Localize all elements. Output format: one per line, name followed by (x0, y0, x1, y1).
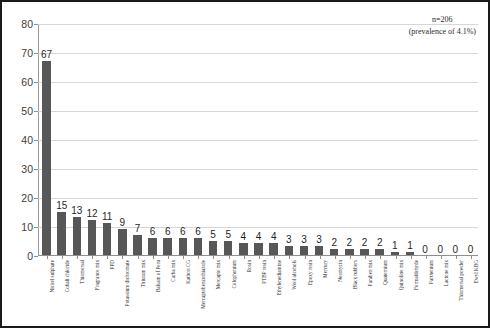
x-axis-tick-mark (471, 256, 472, 259)
x-axis-label-slot: Quaternium (373, 260, 388, 326)
y-axis-tick-mark (34, 169, 38, 170)
bar-series: 6715131211976666554443332222110000 (39, 24, 478, 255)
chart-figure: n=206 (prevalence of 4.1%) 0102030405060… (0, 0, 490, 328)
bar-group: 12 (84, 24, 99, 255)
x-axis-label-slot: Ewyl KBG (464, 260, 479, 326)
bar-value-label: 4 (241, 231, 247, 242)
bar-value-label: 0 (468, 244, 474, 255)
bar-value-label: 13 (71, 205, 82, 216)
bar (73, 217, 81, 255)
bar-value-label: 1 (407, 240, 413, 251)
x-axis-label-slot: Potassium dichromate (115, 260, 130, 326)
bar-group: 3 (281, 24, 296, 255)
bar-group: 3 (312, 24, 327, 255)
bar-value-label: 12 (86, 208, 97, 219)
bar-group: 1 (402, 24, 417, 255)
bar-group: 5 (206, 24, 221, 255)
bar-value-label: 0 (453, 244, 459, 255)
bar-value-label: 7 (135, 223, 141, 234)
bar-value-label: 4 (271, 231, 277, 242)
x-axis-label-slot: PTBP resin (251, 260, 266, 326)
x-axis-tick-mark (183, 256, 184, 259)
y-axis-tick-label: 60 (21, 76, 33, 88)
y-axis-tick-mark (34, 140, 38, 141)
bar-group: 1 (387, 24, 402, 255)
bar-group: 4 (236, 24, 251, 255)
bar-group: 7 (130, 24, 145, 255)
x-axis-label-slot: Mercaptobenzothiazole (191, 260, 206, 326)
bar (391, 252, 399, 255)
bar-group: 13 (69, 24, 84, 255)
x-axis-tick-mark (138, 256, 139, 259)
x-axis-tick-mark (229, 256, 230, 259)
bar-value-label: 5 (210, 229, 216, 240)
x-axis-label-slot: Balsam of Peru (145, 260, 160, 326)
bar-value-label: 6 (150, 226, 156, 237)
y-axis-tick-mark (34, 24, 38, 25)
bar-value-label: 9 (119, 217, 125, 228)
bar (194, 238, 202, 255)
bar (209, 241, 217, 256)
x-axis-label-slot: Neomycin (327, 260, 342, 326)
bar (406, 252, 414, 255)
bar (88, 220, 96, 255)
bar-value-label: 2 (347, 237, 353, 248)
x-axis-label-slot: Wool alcohols (282, 260, 297, 326)
y-axis-tick-label: 30 (21, 163, 33, 175)
y-axis-tick-label: 20 (21, 192, 33, 204)
x-axis-label-slot: Thiomersal powder (449, 260, 464, 326)
bar-value-label: 3 (286, 234, 292, 245)
bar-group: 15 (54, 24, 69, 255)
x-axis-label-slot: PPD (100, 260, 115, 326)
x-axis-tick-mark (305, 256, 306, 259)
x-axis-label-slot: Paraben mix (358, 260, 373, 326)
bar (239, 243, 247, 255)
bar-group: 2 (327, 24, 342, 255)
plot-area: 01020304050607080 6715131211976666554443… (38, 24, 478, 256)
bar-group: 3 (296, 24, 311, 255)
bar-group: 11 (100, 24, 115, 255)
bar-value-label: 0 (422, 244, 428, 255)
y-axis-tick-mark (34, 53, 38, 54)
x-axis-label-slot: Nickel sulphate (39, 260, 54, 326)
x-axis-tick-mark (365, 256, 366, 259)
y-axis-tick-label: 70 (21, 47, 33, 59)
x-axis-tick-mark (259, 256, 260, 259)
y-axis-tick-mark (34, 82, 38, 83)
bar-group: 2 (342, 24, 357, 255)
x-axis-label-slot: Lactone mix (433, 260, 448, 326)
bar-value-label: 2 (331, 237, 337, 248)
x-axis-label-slot: Quinoline mix (388, 260, 403, 326)
x-axis-label-slot: Mercapto mix (206, 260, 221, 326)
bar (345, 249, 353, 255)
x-axis-tick-mark (411, 256, 412, 259)
bar (57, 212, 65, 256)
bar-value-label: 6 (180, 226, 186, 237)
bar-value-label: 6 (195, 226, 201, 237)
bar-value-label: 2 (362, 237, 368, 248)
bar-value-label: 15 (56, 200, 67, 211)
bar (375, 249, 383, 255)
bar-value-label: 4 (256, 231, 262, 242)
x-axis-tick-mark (289, 256, 290, 259)
x-axis-tick-mark (244, 256, 245, 259)
bar (133, 235, 141, 255)
bar-value-label: 3 (316, 234, 322, 245)
x-axis-label-slot: Thiuram mix (130, 260, 145, 326)
x-axis-tick-mark (456, 256, 457, 259)
bar-group: 0 (433, 24, 448, 255)
bar (103, 223, 111, 255)
y-axis-tick-label: 80 (21, 18, 33, 30)
x-axis-tick-mark (320, 256, 321, 259)
x-axis-tick-mark (198, 256, 199, 259)
x-axis-label-slot: Ethylenediamine (267, 260, 282, 326)
bar-group: 0 (418, 24, 433, 255)
x-axis-label-slot: Cobalt chloride (54, 260, 69, 326)
x-axis-tick-mark (213, 256, 214, 259)
bar-value-label: 0 (437, 244, 443, 255)
x-axis-label-slot: Parthenium (418, 260, 433, 326)
x-axis-tick-mark (380, 256, 381, 259)
x-axis-label-slot: Carba mix (160, 260, 175, 326)
y-axis-tick-mark (34, 256, 38, 257)
x-axis-tick-mark (441, 256, 442, 259)
